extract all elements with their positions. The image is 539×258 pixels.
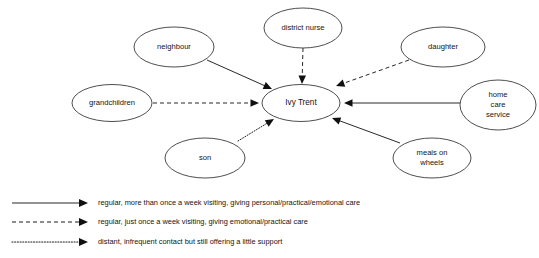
node-district-nurse-label: district nurse <box>281 23 324 32</box>
edge-son-line <box>238 123 268 141</box>
node-meals-on-wheels-label: wheels <box>419 158 444 167</box>
node-neighbour[interactable]: neighbour <box>134 27 214 67</box>
edge-grandchildren <box>153 99 259 107</box>
network-diagram-canvas: district nurseneighbourdaughtergrandchil… <box>0 0 539 258</box>
edge-district-nurse <box>298 48 305 84</box>
node-meals-on-wheels[interactable]: meals onwheels <box>393 138 471 178</box>
edge-home-care-service-arrowhead <box>344 99 353 107</box>
nodes-layer: district nurseneighbourdaughtergrandchil… <box>72 8 536 178</box>
legend-solid: regular, more than once a week visiting,… <box>12 198 360 207</box>
node-ivy-trent[interactable]: Ivy Trent <box>262 85 340 122</box>
node-meals-on-wheels-label: meals on <box>417 148 448 157</box>
legend-dotted-label: distant, infrequent contact but still of… <box>98 237 282 246</box>
edge-neighbour-line <box>207 60 266 86</box>
legend-dotted-arrowhead <box>79 238 88 246</box>
legend-dashed: regular, just once a week visiting, givi… <box>12 217 308 226</box>
legend-dashed-arrowhead <box>79 218 88 226</box>
edge-daughter-arrowhead <box>336 80 345 87</box>
edge-home-care-service <box>344 99 460 107</box>
node-home-care-service-label: care <box>491 100 506 109</box>
node-ivy-trent-label: Ivy Trent <box>285 98 317 107</box>
legend-solid-arrowhead <box>79 199 88 207</box>
edge-grandchildren-arrowhead <box>251 99 260 107</box>
edge-son <box>238 119 274 141</box>
node-daughter-label: daughter <box>428 42 458 51</box>
node-grandchildren-label: grandchildren <box>89 98 135 107</box>
edge-daughter-line <box>343 60 409 84</box>
node-son[interactable]: son <box>165 138 245 178</box>
edge-son-arrowhead <box>265 119 274 127</box>
node-grandchildren[interactable]: grandchildren <box>72 85 152 122</box>
edge-meals-on-wheels <box>332 117 400 143</box>
legend-solid-label: regular, more than once a week visiting,… <box>98 198 360 207</box>
node-home-care-service-label: service <box>486 110 510 119</box>
legend-layer: regular, more than once a week visiting,… <box>12 198 360 246</box>
legend-dashed-label: regular, just once a week visiting, givi… <box>98 217 308 226</box>
node-daughter[interactable]: daughter <box>401 27 485 67</box>
node-district-nurse[interactable]: district nurse <box>264 8 342 48</box>
edge-district-nurse-arrowhead <box>298 75 305 84</box>
edge-meals-on-wheels-line <box>339 120 400 143</box>
legend-dotted: distant, infrequent contact but still of… <box>12 237 282 246</box>
edge-neighbour <box>207 60 272 89</box>
edge-district-nurse-line <box>302 48 303 77</box>
edge-daughter <box>336 60 409 87</box>
node-home-care-service-label: home <box>489 90 508 99</box>
edge-meals-on-wheels-arrowhead <box>332 117 341 124</box>
node-home-care-service[interactable]: homecareservice <box>460 80 536 130</box>
network-diagram: district nurseneighbourdaughtergrandchil… <box>0 0 539 258</box>
node-neighbour-label: neighbour <box>157 42 191 51</box>
node-son-label: son <box>199 153 211 162</box>
